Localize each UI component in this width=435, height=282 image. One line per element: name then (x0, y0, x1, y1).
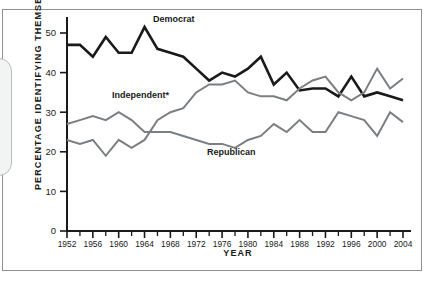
x-tick-label: 2004 (394, 239, 413, 249)
x-tick-label: 1972 (187, 239, 206, 249)
x-axis-ticks (67, 231, 403, 238)
y-tick-label: 20 (45, 146, 56, 157)
y-tick-label: 40 (45, 67, 56, 78)
x-tick-label: 1964 (135, 239, 154, 249)
y-tick-label: 30 (45, 107, 56, 118)
chart-svg: 01020304050 1952195619601964196819721976… (0, 0, 435, 282)
series-label-independent: Independent* (112, 90, 169, 100)
series-label-democrat: Democrat (153, 14, 195, 24)
x-tick-label: 1956 (84, 239, 103, 249)
x-tick-label: 1952 (58, 239, 77, 249)
y-tick-label: 50 (45, 27, 56, 38)
x-tick-label: 1996 (342, 239, 361, 249)
line-chart: 01020304050 1952195619601964196819721976… (0, 0, 435, 282)
y-tick-label: 10 (45, 186, 56, 197)
x-tick-label: 1968 (161, 239, 180, 249)
x-tick-label: 1992 (316, 239, 335, 249)
x-axis-title: YEAR (223, 248, 252, 258)
x-tick-label: 1960 (109, 239, 128, 249)
x-tick-label: 1988 (290, 239, 309, 249)
y-axis-ticks (60, 33, 67, 231)
series-label-republican: Republican (207, 147, 256, 157)
y-tick-label: 0 (51, 225, 56, 236)
y-axis-tick-labels: 01020304050 (45, 27, 56, 236)
x-tick-label: 2000 (368, 239, 387, 249)
y-axis-title: PERCENTAGE IDENTIFYING THEMSELVES AS . .… (33, 0, 43, 190)
x-tick-label: 1984 (264, 239, 283, 249)
